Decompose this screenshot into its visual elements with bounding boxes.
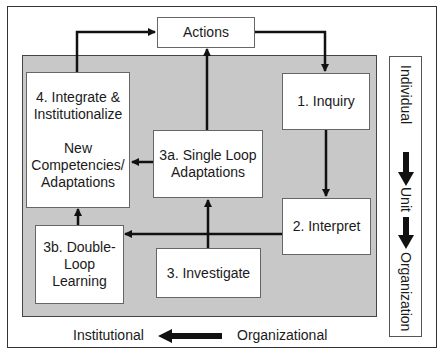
double-loop-label-line1: 3b. Double-: [43, 239, 115, 256]
arrow-actions-to-inquiry: [255, 32, 325, 71]
integrate-label-line2: Institutionalize: [34, 106, 123, 123]
investigate-box: 3. Investigate: [156, 248, 261, 298]
inquiry-box: 1. Inquiry: [282, 73, 370, 130]
investigate-label: 3. Investigate: [167, 265, 250, 282]
single-loop-label-line2: Adaptations: [171, 164, 245, 181]
arrow-integrate-to-actions: [77, 32, 155, 72]
interpret-box: 2. Interpret: [282, 198, 371, 255]
actions-label: Actions: [183, 24, 229, 41]
scale-institutional: Institutional: [73, 327, 144, 343]
scale-organizational: Organizational: [237, 327, 327, 343]
scale-unit: Unit: [398, 187, 414, 212]
interpret-label: 2. Interpret: [293, 218, 361, 235]
double-loop-box: 3b. Double- Loop Learning: [35, 225, 124, 304]
down-arrow-icon: [398, 152, 414, 186]
double-loop-label-line2: Loop: [64, 256, 95, 273]
integrate-label-line3: New: [64, 140, 92, 157]
integrate-label-line5: Adaptations: [41, 174, 115, 191]
actions-box: Actions: [157, 17, 255, 48]
scale-organization: Organization: [398, 252, 414, 331]
left-arrow-icon: [158, 329, 222, 343]
integrate-box: 4. Integrate & Institutionalize New Comp…: [26, 72, 130, 208]
single-loop-label-line1: 3a. Single Loop: [159, 147, 256, 164]
scale-individual: Individual: [398, 65, 414, 124]
double-loop-label-line3: Learning: [52, 273, 107, 290]
single-loop-box: 3a. Single Loop Adaptations: [153, 130, 263, 198]
integrate-label-line4: Competencies/: [31, 157, 124, 174]
inquiry-label: 1. Inquiry: [297, 93, 355, 110]
down-arrow-icon: [398, 217, 414, 249]
level-scale-panel: Individual Unit Organization: [389, 56, 422, 337]
integrate-label-line1: 4. Integrate &: [36, 89, 120, 106]
